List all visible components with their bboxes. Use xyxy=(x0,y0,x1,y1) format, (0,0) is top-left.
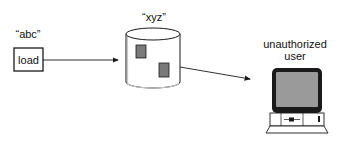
store-label: “xyz” xyxy=(138,11,170,23)
arrow-store-to-user xyxy=(180,67,250,79)
floppy-slot xyxy=(289,118,294,122)
computer-icon xyxy=(266,68,328,133)
data-block-1 xyxy=(136,45,146,58)
diagram-canvas xyxy=(0,0,349,141)
actor-label-line2: user xyxy=(255,50,335,62)
actor-label-line1: unauthorized xyxy=(255,38,335,50)
source-label: “abc” xyxy=(12,28,44,40)
keyboard xyxy=(266,126,328,133)
data-block-2 xyxy=(159,63,169,77)
monitor-screen xyxy=(276,72,318,107)
power-led xyxy=(318,116,320,122)
database-cylinder-icon xyxy=(126,28,180,88)
load-box-text: load xyxy=(14,54,43,66)
